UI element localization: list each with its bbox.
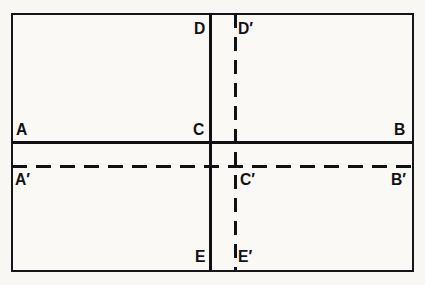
- label-e-prime: E′: [238, 248, 252, 265]
- label-a-prime: A′: [15, 171, 30, 188]
- diagram-canvas: D D′ A C B A′ C′ B′ E E′: [0, 0, 425, 285]
- label-d: D: [194, 20, 205, 37]
- line-work: [13, 15, 412, 270]
- label-b-prime: B′: [391, 171, 406, 188]
- label-c: C: [193, 121, 204, 138]
- label-c-prime: C′: [240, 171, 255, 188]
- label-e: E: [195, 248, 205, 265]
- label-d-prime: D′: [238, 20, 253, 37]
- figure-frame: [11, 13, 414, 272]
- label-b: B: [394, 121, 405, 138]
- label-a: A: [16, 121, 27, 138]
